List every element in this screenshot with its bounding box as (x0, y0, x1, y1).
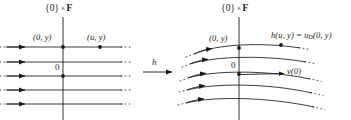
flow-line (186, 98, 314, 107)
left-origin-label: 0 (55, 63, 60, 72)
left-u-fiber-label: (u, y) (87, 33, 106, 42)
flow-line (190, 57, 306, 64)
left-axis-label: {0}×F (45, 4, 73, 14)
left-origin-fiber-dot (61, 45, 65, 49)
left-axis-fiber: F (67, 3, 73, 13)
right-image-equation-label: h(u, y) = uD(0, y) (271, 31, 332, 40)
equation-lhs: h(u, y) = u (271, 30, 309, 40)
math-figure: {0}×F (0, y) (u, y) 0 h {0}×F (0, y) h(u… (0, 0, 351, 120)
right-axis-label: {0}×F (221, 4, 249, 14)
right-origin-fiber-dot (237, 46, 241, 50)
flow-line (187, 85, 312, 93)
equation-tail: (0, y) (313, 30, 332, 40)
right-origin-label: 0 (231, 61, 236, 70)
map-arrow-label: h (152, 58, 157, 67)
figure-canvas (0, 0, 351, 120)
right-axis-times: × (235, 4, 242, 13)
right-axis-fiber: F (243, 3, 249, 13)
left-origin-fiber-label: (0, y) (33, 33, 52, 42)
left-flow-line-dots (0, 47, 133, 104)
right-image-dot (279, 43, 283, 47)
right-origin-dot (237, 72, 241, 76)
tangent-vector-label: v(0) (287, 67, 301, 76)
left-u-fiber-dot (98, 45, 102, 49)
left-panel-graphics (0, 17, 133, 120)
left-flow-arrowheads (7, 47, 25, 104)
left-origin-dot (61, 74, 65, 78)
left-axis-times: × (59, 4, 66, 13)
right-origin-fiber-label: (0, y) (209, 34, 228, 43)
